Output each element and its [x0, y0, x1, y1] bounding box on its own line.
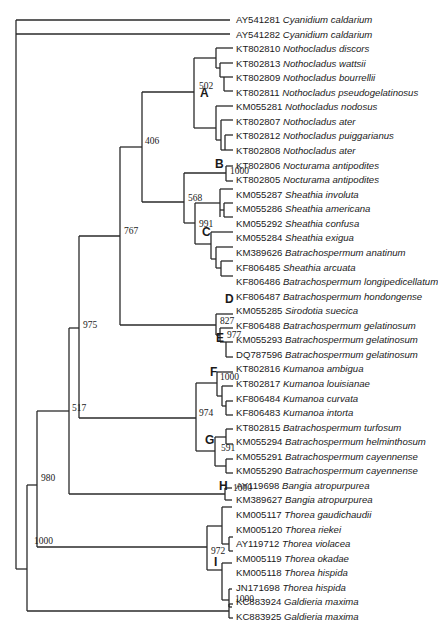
species-name: Kumanoa curvata [283, 393, 358, 404]
species-name: Nocturama antipodites [283, 174, 379, 185]
leaf-label: KF806483 Kumanoa intorta [236, 407, 353, 418]
leaf-label: KT802806 Nocturama antipodites [236, 160, 379, 171]
bootstrap-value: 827 [220, 316, 234, 326]
species-name: Batrachospermum gelatinosum [283, 320, 416, 331]
accession-number: AY541281 [236, 14, 283, 25]
leaf-label: KT802813 Nothocladus wattsii [236, 58, 366, 69]
bootstrap-value: 977 [227, 330, 241, 340]
species-name: Kumanoa ambigua [283, 363, 364, 374]
accession-number: JN171698 [236, 582, 282, 593]
accession-number: KM389626 [236, 247, 285, 258]
accession-number: KM055294 [236, 436, 285, 447]
leaf-label: KM055286 Sheathia americana [236, 203, 370, 214]
species-name: Bangia atropurpurea [282, 480, 369, 491]
leaf-label: KM055284 Sheathia exigua [236, 232, 354, 243]
accession-number: KF806486 [236, 276, 283, 287]
leaf-label: KT802805 Nocturama antipodites [236, 174, 379, 185]
accession-number: KT802810 [236, 43, 283, 54]
accession-number: KM005117 [236, 509, 284, 520]
species-name: Sheathia americana [285, 203, 370, 214]
species-name: Sheathia involuta [285, 189, 359, 200]
leaf-label: KM005120 Thorea riekei [236, 524, 341, 535]
accession-number: KT802809 [236, 72, 283, 83]
accession-number: KM389627 [236, 494, 285, 505]
leaf-label: JN171698 Thorea hispida [236, 582, 346, 593]
species-name: Thorea hispida [282, 582, 345, 593]
leaf-label: AY119698 Bangia atropurpurea [236, 480, 370, 491]
accession-number: KM055285 [236, 305, 285, 316]
leaf-label: AY541282 Cyanidium caldarium [236, 29, 372, 40]
leaf-label: KT802816 Kumanoa ambigua [236, 363, 364, 374]
leaf-label: KM389626 Batrachospermum anatinum [236, 247, 406, 258]
species-name: Bangia atropurpurea [285, 494, 372, 505]
species-name: Batrachospermum cayennense [285, 465, 418, 476]
species-name: Cyanidium caldarium [283, 14, 373, 25]
leaf-label: KT802807 Nothocladus ater [236, 116, 355, 127]
bootstrap-value: 591 [221, 443, 235, 453]
leaf-label: KF806487 Batrachospermum hondongense [236, 291, 422, 302]
species-name: Batrachospermum hondongense [283, 291, 422, 302]
accession-number: KF806484 [236, 393, 283, 404]
accession-number: KM055293 [236, 334, 285, 345]
leaf-label: KM005117 Thorea gaudichaudii [236, 509, 371, 520]
bootstrap-value: 975 [83, 320, 97, 330]
species-name: Nothocladus wattsii [283, 58, 366, 69]
accession-number: KC883925 [236, 611, 284, 622]
accession-number: AY119712 [236, 538, 282, 549]
species-name: Nothocladus ater [283, 116, 356, 127]
species-name: Nothocladus nodosus [285, 101, 377, 112]
species-name: Sheathia arcuata [283, 262, 356, 273]
bootstrap-value: 767 [124, 226, 138, 236]
accession-number: KM005120 [236, 524, 285, 535]
species-name: Kumanoa intorta [283, 407, 353, 418]
species-name: Nothocladus discors [283, 43, 369, 54]
accession-number: KF806483 [236, 407, 283, 418]
species-name: Galdieria maxima [284, 596, 359, 607]
clade-label: C [202, 226, 211, 238]
species-name: Batrachospermum longipedicellatum [283, 276, 438, 287]
species-name: Thorea riekei [285, 524, 341, 535]
leaf-label: KT802808 Nothocladus ater [236, 145, 355, 156]
species-name: Batrachospermum cayennense [285, 451, 418, 462]
bootstrap-value: 1000 [235, 594, 254, 604]
leaf-label: KC883924 Galdieria maxima [236, 596, 359, 607]
accession-number: KT802816 [236, 363, 283, 374]
accession-number: KT802812 [236, 130, 283, 141]
bootstrap-value: 1000 [233, 483, 252, 493]
accession-number: KM005118 [236, 567, 284, 578]
leaf-label: KT802812 Nothocladus puiggarianus [236, 130, 394, 141]
species-name: Batrachospermum helminthosum [285, 436, 426, 447]
species-name: Nocturama antipodites [283, 160, 379, 171]
species-name: Thorea violacea [282, 538, 350, 549]
clade-label: G [205, 434, 214, 446]
bootstrap-value: 1000 [34, 536, 53, 546]
clade-label: H [219, 480, 228, 492]
species-name: Batrachospermum anatinum [285, 247, 406, 258]
species-name: Nothocladus bourrellii [283, 72, 375, 83]
accession-number: KM055292 [236, 218, 285, 229]
leaf-label: KT802815 Batrachospermum turfosum [236, 422, 401, 433]
accession-number: KF806487 [236, 291, 283, 302]
accession-number: KF806485 [236, 262, 283, 273]
clade-label: B [215, 158, 224, 170]
leaf-label: KM055294 Batrachospermum helminthosum [236, 436, 426, 447]
species-name: Batrachospermum gelatinosum [285, 349, 418, 360]
clade-label: D [225, 293, 234, 305]
leaf-label: KM055281 Nothocladus nodosus [236, 101, 377, 112]
species-name: Sirodotia suecica [285, 305, 358, 316]
leaf-label: AY119712 Thorea violacea [236, 538, 350, 549]
leaf-label: KF806485 Sheathia arcuata [236, 262, 356, 273]
accession-number: KT802811 [236, 87, 282, 98]
species-name: Cyanidium caldarium [283, 29, 373, 40]
bootstrap-value: 568 [188, 193, 202, 203]
leaf-label: KM055290 Batrachospermum cayennense [236, 465, 418, 476]
species-name: Nothocladus ater [283, 145, 356, 156]
accession-number: DQ787596 [236, 349, 285, 360]
leaf-label: KM055291 Batrachospermum cayennense [236, 451, 418, 462]
leaf-label: KT802810 Nothocladus discors [236, 43, 369, 54]
leaf-label: KT802817 Kumanoa louisianae [236, 378, 370, 389]
bootstrap-value: 1000 [220, 372, 239, 382]
leaf-label: KM055287 Sheathia involuta [236, 189, 359, 200]
leaf-label: KT802809 Nothocladus bourrellii [236, 72, 375, 83]
leaf-label: AY541281 Cyanidium caldarium [236, 14, 372, 25]
